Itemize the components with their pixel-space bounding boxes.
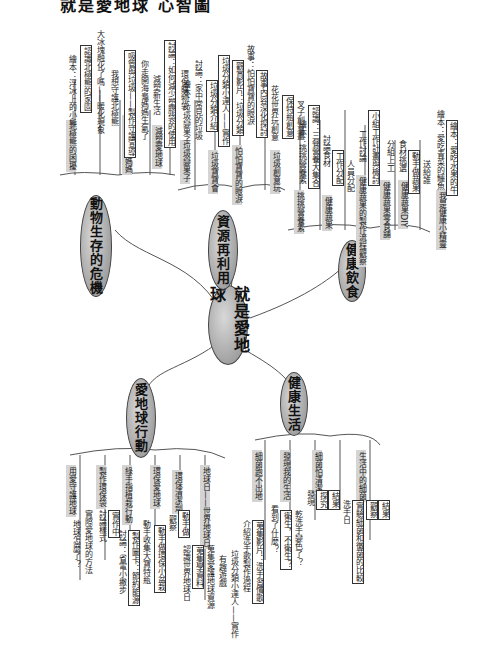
node-cleaner[interactable]: 環保清潔劑 <box>172 470 182 514</box>
leaf: 觀賞影片：垃圾分類 <box>232 60 244 136</box>
node-garbage-fruit[interactable]: 垃圾變果子 <box>180 140 190 184</box>
leaf: 認識世界地球日 <box>180 545 190 601</box>
leaf: 討論：家中常見的垃圾 <box>192 60 202 140</box>
node-earth-day[interactable]: 地球日——世界地球日 <box>200 465 210 549</box>
leaf: 結果 <box>378 500 390 520</box>
leaf: 蒐集學資料 <box>192 545 204 589</box>
leaf: 送給誰 <box>420 160 430 184</box>
branch-healthy-life[interactable]: 健康生活 <box>280 372 308 436</box>
leaf: 減塑新生活 <box>150 75 160 115</box>
node-nutrients[interactable]: 挑挑營養素 <box>294 190 304 234</box>
node-healthy-fruit[interactable]: 健康蔬果 <box>322 195 332 231</box>
node-process[interactable]: 健康蔬果的製作流程觀察 <box>356 175 366 267</box>
leaf: 實驗細菌和黴菌的比較 <box>352 500 364 584</box>
leaf: 小組工作計畫與檢討 <box>368 110 380 186</box>
branch-animal-crisis[interactable]: 動物生存的危機 <box>80 195 112 297</box>
leaf: 食材挑選 <box>396 140 406 172</box>
leaf: 觀察 <box>366 500 378 520</box>
leaf: 繪本：挑挑營養素 <box>296 120 306 184</box>
node-eco-bag[interactable]: 製作環保袋 <box>96 465 106 509</box>
branch-recycling[interactable]: 資源再利用 <box>208 210 238 290</box>
node-diy[interactable]: 健康蔬果DIY <box>398 180 408 229</box>
node-snack-shop[interactable]: 健康蔬果零食舖 <box>380 180 390 240</box>
leaf: 討論：如何減少塑膠袋的使用 <box>164 40 176 148</box>
leaf: 討論食材 <box>320 135 330 167</box>
leaf: 乾洗手變色了？ <box>292 510 302 566</box>
node-protect-earth[interactable]: 用愛守護地球 <box>66 465 76 517</box>
leaf: 發現 <box>304 490 314 506</box>
leaf: 工作討論 <box>356 130 366 162</box>
leaf: 有趣遊戲 <box>216 555 226 587</box>
leaf: 探究 <box>316 490 328 510</box>
leaf: 你走開海龜媽媽生氣了 <box>138 60 148 140</box>
leaf: 討論樣式 <box>96 510 106 542</box>
leaf: 動手收集大寶特瓶 <box>140 520 150 584</box>
leaf: 垃圾分類介紹 <box>206 80 218 132</box>
leaf: 蒐集愛護地球資源 <box>204 545 214 609</box>
node-green-finger[interactable]: 綠手指植栽行動 <box>122 465 132 525</box>
leaf: 保特瓶創意 <box>282 95 294 139</box>
leaf: 看到了什麼？ <box>268 505 278 553</box>
node-eco-earth[interactable]: 環保愛地球 <box>150 465 160 509</box>
leaf: 討論：省電小撇步 <box>116 530 126 594</box>
leaf: 繪本：愛吃青菜的鱷魚 <box>434 110 444 190</box>
node-garbage-creative[interactable]: 垃圾創意玩 <box>270 150 280 194</box>
leaf: 結果 <box>328 490 340 510</box>
leaf: 花花世界玩創意 <box>268 85 278 141</box>
leaf: 故事：怕怕寶寶的眼淚 <box>244 45 254 125</box>
leaf: 垃圾分類小達人——實作 <box>228 550 238 638</box>
leaf: 故事內容深化探討 <box>256 70 268 138</box>
leaf: 認識北極熊的家園 <box>80 45 92 113</box>
leaf: 實際愛地球的方法 <box>82 510 92 574</box>
leaf: 製作圖卡：節約能源 <box>128 530 140 606</box>
leaf: 繪本：愛吃水果的牛 <box>446 120 458 196</box>
node-my-life[interactable]: 發現我的生活 <box>280 450 290 502</box>
leaf: 繪本：浮冰上的小熊 <box>66 55 76 127</box>
leaf: 動手做 <box>178 510 190 538</box>
node-health-elf[interactable]: 我是健康小精靈 <box>436 190 446 250</box>
node-reduce-plastic[interactable]: 減塑愛地球 <box>152 125 162 169</box>
leaf: 大冰塊融化了嗎——暖化現象 <box>94 30 104 134</box>
node-germs[interactable]: 細菌跑不出地 <box>252 450 262 502</box>
leaf: 地球怎麼了？ <box>70 520 80 568</box>
leaf: 分組上工 <box>384 140 394 172</box>
leaf: 洗手日 <box>340 500 350 524</box>
leaf: 吸管與垃圾——製作守護宣導 <box>124 50 136 158</box>
node-garbage-baby[interactable]: 垃圾寶寶會 <box>208 150 218 194</box>
leaf: 衛生，不衛生？ <box>280 510 292 570</box>
leaf: 人員分配 <box>344 160 354 192</box>
node-scared-baby[interactable]: 怕怕寶寶的眼淚 <box>232 145 242 205</box>
leaf: 觀察 <box>166 515 176 531</box>
leaf: 繪本：垃圾變果子 <box>180 80 190 144</box>
center-node[interactable]: 就是愛地球 <box>208 285 248 365</box>
leaf: 我想守護北極熊 <box>108 70 118 126</box>
node-polar-bear[interactable]: 北極熊的困擾 <box>66 120 76 172</box>
branch-earth-action[interactable]: 愛地球行動 <box>126 378 156 458</box>
leaf: 蒐集影片：洗手習慣歌 <box>252 520 264 604</box>
leaf: 垃圾分類小達人——實作 <box>218 55 230 147</box>
leaf: 動手做蔬果 <box>408 150 420 194</box>
node-daily-germs[interactable]: 生活中的細菌 <box>356 450 366 502</box>
leaf: 認識：三餐營養大集合 <box>308 105 320 189</box>
leaf: 動手做環保小盆栽 <box>154 525 166 593</box>
node-clean[interactable]: 細菌怕清潔 <box>312 450 322 494</box>
leaf: 介紹洗手歌製作過程 <box>240 520 250 592</box>
leaf: 工作分配 <box>332 150 344 186</box>
